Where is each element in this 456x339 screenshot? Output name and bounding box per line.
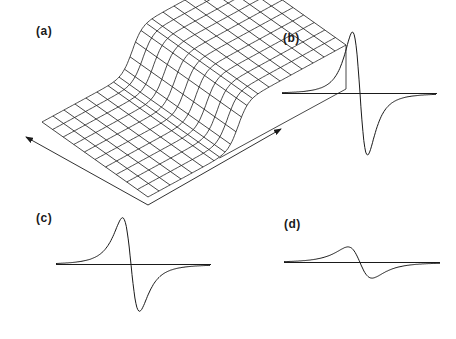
panel-a-surface [42, 0, 346, 197]
panel-d-plot [284, 247, 440, 278]
panel-c-plot [56, 218, 211, 312]
right-arrow [148, 129, 281, 205]
figure-canvas [0, 0, 456, 339]
panel-b-plot [282, 32, 437, 155]
left-arrow [26, 137, 148, 205]
